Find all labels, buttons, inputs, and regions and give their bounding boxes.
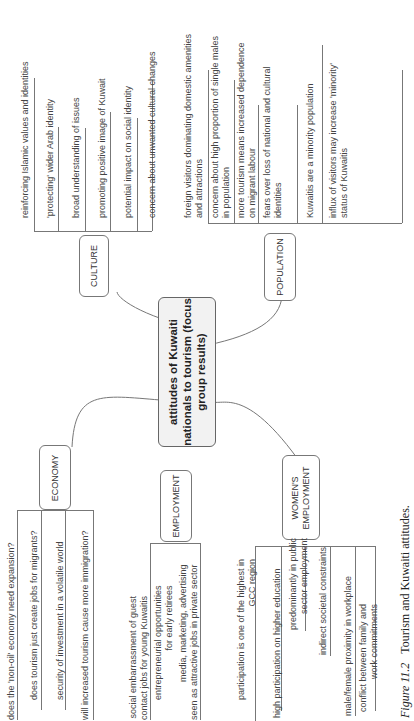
- womens-employment-item: high participation on higher education: [272, 568, 283, 718]
- womens-employment-item: conflict between family andwork commitme…: [358, 604, 380, 712]
- culture-bracket: [34, 231, 152, 232]
- figure-number: Figure 11.2: [398, 663, 412, 718]
- central-topic-line2: nationals to tourism (focus: [180, 298, 194, 446]
- culture-item: 'protecting' wider Arab identity: [45, 99, 56, 218]
- womens-employment-item: participation is one of the highest inGC…: [236, 559, 258, 700]
- employment-item: entrepreneurial opportunitiesfor early r…: [153, 585, 175, 700]
- employment-node: EMPLOYMENT: [160, 470, 192, 542]
- population-item: more tourism means increased dependenceo…: [236, 42, 258, 218]
- culture-item: concern about unwanted cultural changes: [147, 51, 158, 218]
- population-item: foreign visitors dominating domestic ame…: [183, 34, 205, 218]
- figure-caption: Figure 11.2 Tourism and Kuwaiti attitude…: [398, 505, 413, 718]
- culture-item: reinforcing Islamic values and identitie…: [20, 61, 31, 218]
- economy-item: does the 'non-oil' economy need expansio…: [6, 542, 17, 720]
- population-bracket: [208, 223, 402, 224]
- central-topic-node: attitudes of Kuwaiti nationals to touris…: [158, 297, 216, 447]
- womens-employment-node: WOMEN'S EMPLOYMENT: [282, 455, 320, 540]
- central-topic-line1: attitudes of Kuwaiti: [166, 298, 180, 446]
- employment-label: EMPLOYMENT: [171, 474, 182, 537]
- figure-title: Tourism and Kuwaiti attitudes.: [398, 505, 412, 653]
- culture-node: CULTURE: [79, 235, 109, 297]
- culture-item: broad understanding of issues: [71, 97, 82, 218]
- population-item: fears over loss of national and cultural…: [262, 66, 284, 218]
- womens-employment-label-2: EMPLOYMENT: [301, 466, 312, 529]
- economy-label: ECONOMY: [50, 454, 61, 501]
- economy-node: ECONOMY: [39, 445, 71, 510]
- economy-item: will increased tourism cause more immigr…: [80, 530, 91, 720]
- womens-employment-item: male/female proximity in workplace: [343, 576, 354, 716]
- population-item: influx of visitors may increase 'minorit…: [328, 63, 350, 218]
- culture-item: promoting positive image of Kuwait: [97, 78, 108, 218]
- employment-item: media, marketing, advertisingseen as att…: [178, 564, 200, 720]
- population-item: concern about high proportion of single …: [210, 36, 232, 218]
- womens-employment-item: predominantly in publicsector employment: [288, 538, 310, 630]
- economy-item: security of investment in a volatile wor…: [55, 541, 66, 700]
- culture-item: potential impact on social identity: [123, 86, 134, 218]
- population-node: POPULATION: [264, 233, 296, 301]
- economy-bracket: [17, 510, 93, 511]
- culture-label: CULTURE: [89, 245, 100, 287]
- womens-employment-label-1: WOMEN'S: [290, 466, 301, 529]
- employment-bracket: [150, 543, 200, 544]
- womens-employment-bracket: [255, 546, 375, 547]
- womens-employment-item: indirect societal constraints: [318, 547, 329, 655]
- population-label: POPULATION: [275, 238, 286, 295]
- central-topic-line3: group results): [194, 298, 208, 446]
- population-item: Kuwaitis are a minority population: [305, 83, 316, 218]
- employment-item: social embarrassment of guestcontact job…: [128, 596, 150, 720]
- economy-item: does tourism just create jobs for migran…: [29, 530, 40, 700]
